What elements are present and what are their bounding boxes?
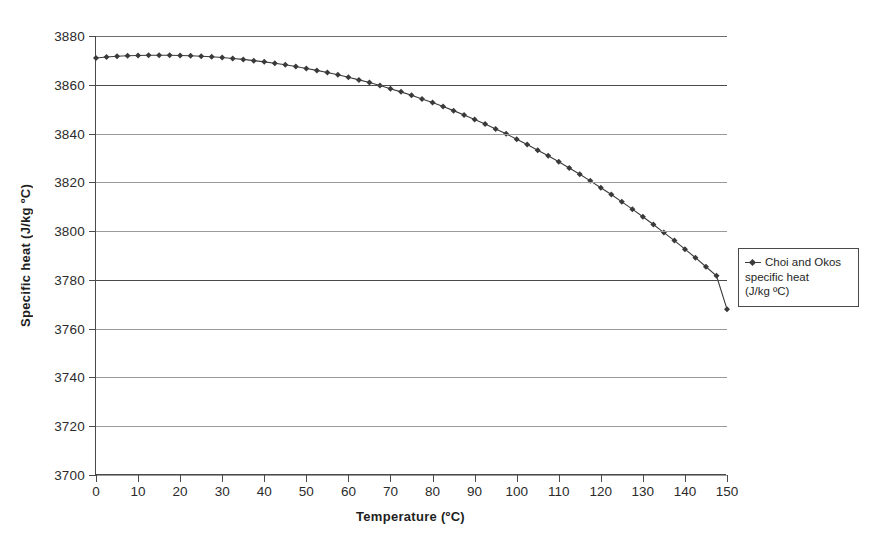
gridline-y bbox=[96, 426, 727, 427]
data-point-marker bbox=[472, 116, 478, 122]
data-point-marker bbox=[282, 62, 288, 68]
x-tick bbox=[517, 475, 518, 482]
y-tick-label: 3700 bbox=[54, 468, 85, 483]
y-tick-label: 3800 bbox=[54, 224, 85, 239]
x-tick bbox=[138, 475, 139, 482]
x-tick bbox=[475, 475, 476, 482]
data-point-marker bbox=[261, 59, 267, 65]
y-tick-label: 3740 bbox=[54, 370, 85, 385]
data-point-marker bbox=[451, 108, 457, 114]
x-tick-label: 130 bbox=[632, 484, 655, 499]
legend-label-line1: Choi and Okos bbox=[765, 256, 841, 268]
data-point-marker bbox=[219, 54, 225, 60]
data-point-marker bbox=[293, 63, 299, 69]
y-tick bbox=[89, 280, 96, 281]
data-point-marker bbox=[198, 53, 204, 59]
x-tick bbox=[96, 475, 97, 482]
data-point-marker bbox=[209, 54, 215, 60]
data-point-marker bbox=[535, 147, 541, 153]
data-point-marker bbox=[230, 55, 236, 61]
y-tick bbox=[89, 426, 96, 427]
data-point-marker bbox=[251, 58, 257, 64]
x-tick bbox=[180, 475, 181, 482]
x-tick bbox=[306, 475, 307, 482]
data-point-marker bbox=[461, 112, 467, 118]
y-tick-label: 3760 bbox=[54, 321, 85, 336]
gridline-y bbox=[96, 377, 727, 378]
y-tick bbox=[89, 329, 96, 330]
y-tick-label: 3720 bbox=[54, 419, 85, 434]
data-point-marker bbox=[335, 72, 341, 78]
legend-item-choi-okos: Choi and Okos specific heat (J/kg ºC) bbox=[745, 255, 852, 299]
x-tick-label: 100 bbox=[505, 484, 528, 499]
y-tick bbox=[89, 377, 96, 378]
gridline-y bbox=[96, 231, 727, 232]
legend: Choi and Okos specific heat (J/kg ºC) bbox=[738, 248, 859, 307]
x-tick bbox=[264, 475, 265, 482]
x-tick-label: 80 bbox=[425, 484, 440, 499]
y-tick bbox=[89, 134, 96, 135]
x-tick-label: 140 bbox=[674, 484, 697, 499]
x-tick bbox=[348, 475, 349, 482]
x-tick-label: 90 bbox=[467, 484, 482, 499]
data-point-marker bbox=[545, 153, 551, 159]
data-point-marker bbox=[598, 185, 604, 191]
data-point-marker bbox=[566, 165, 572, 171]
y-tick-label: 3780 bbox=[54, 272, 85, 287]
data-point-marker bbox=[135, 53, 141, 59]
data-point-marker bbox=[387, 86, 393, 92]
y-tick bbox=[89, 475, 96, 476]
legend-label: Choi and Okos specific heat (J/kg ºC) bbox=[765, 255, 841, 299]
data-point-marker bbox=[125, 53, 131, 59]
data-point-marker bbox=[514, 136, 520, 142]
y-tick-label: 3860 bbox=[54, 77, 85, 92]
data-point-marker bbox=[104, 54, 110, 60]
x-tick bbox=[685, 475, 686, 482]
y-tick bbox=[89, 182, 96, 183]
x-tick bbox=[559, 475, 560, 482]
data-point-marker bbox=[493, 126, 499, 132]
x-tick-label: 110 bbox=[548, 484, 570, 499]
data-point-marker bbox=[272, 60, 278, 66]
x-tick-label: 40 bbox=[257, 484, 272, 499]
x-tick-label: 30 bbox=[215, 484, 230, 499]
data-point-marker bbox=[156, 52, 162, 58]
x-tick bbox=[433, 475, 434, 482]
y-axis-title: Specific heat (J/kg ºC) bbox=[14, 36, 36, 475]
x-tick bbox=[601, 475, 602, 482]
x-tick-label: 20 bbox=[173, 484, 188, 499]
x-tick-label: 120 bbox=[590, 484, 613, 499]
gridline-y bbox=[96, 134, 727, 135]
x-tick bbox=[222, 475, 223, 482]
x-tick-label: 50 bbox=[299, 484, 314, 499]
data-point-marker bbox=[93, 55, 99, 61]
x-tick-label: 60 bbox=[341, 484, 356, 499]
data-point-marker bbox=[303, 65, 309, 71]
data-point-marker bbox=[482, 121, 488, 127]
chart-container: Specific heat (J/kg ºC) 3700372037403760… bbox=[0, 0, 889, 552]
data-point-marker bbox=[398, 89, 404, 95]
gridline-y bbox=[96, 475, 727, 476]
x-tick bbox=[390, 475, 391, 482]
x-tick-label: 0 bbox=[92, 484, 100, 499]
y-tick bbox=[89, 231, 96, 232]
legend-marker-icon bbox=[745, 256, 761, 270]
y-tick-label: 3820 bbox=[54, 175, 85, 190]
data-point-marker bbox=[440, 103, 446, 109]
legend-label-line3: (J/kg ºC) bbox=[745, 284, 841, 299]
data-point-marker bbox=[167, 52, 173, 58]
data-point-marker bbox=[524, 142, 530, 148]
data-point-marker bbox=[356, 77, 362, 83]
y-tick bbox=[89, 36, 96, 37]
x-tick bbox=[643, 475, 644, 482]
gridline-y bbox=[96, 280, 727, 281]
y-tick bbox=[89, 85, 96, 86]
data-point-marker bbox=[240, 56, 246, 62]
plot-area: 3700372037403760378038003820384038603880… bbox=[95, 36, 726, 475]
data-point-marker bbox=[324, 70, 330, 76]
x-tick-label: 10 bbox=[131, 484, 146, 499]
x-tick-label: 70 bbox=[383, 484, 398, 499]
data-point-marker bbox=[409, 92, 415, 98]
data-point-marker bbox=[419, 96, 425, 102]
data-series-line bbox=[96, 36, 727, 475]
